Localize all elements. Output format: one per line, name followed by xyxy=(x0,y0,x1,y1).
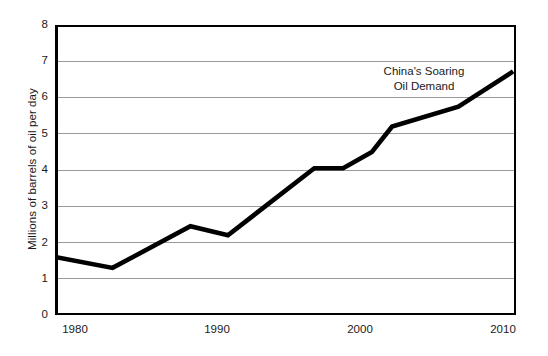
y-tick-label-1: 1 xyxy=(26,272,48,284)
y-tick-label-4: 4 xyxy=(26,163,48,175)
x-tick-label-1990: 1990 xyxy=(187,323,247,335)
y-tick-label-0: 0 xyxy=(26,308,48,320)
y-tick-label-5: 5 xyxy=(26,127,48,139)
chart-figure: Millions of barrels of oil per day 8 7 6… xyxy=(0,0,548,356)
x-tick-label-1980: 1980 xyxy=(45,323,105,335)
y-tick-label-2: 2 xyxy=(26,236,48,248)
y-tick-label-6: 6 xyxy=(26,90,48,102)
annotation-line-1: China's Soaring xyxy=(359,64,489,79)
x-tick-label-2010: 2010 xyxy=(473,323,533,335)
y-tick-label-3: 3 xyxy=(26,199,48,211)
x-tick-label-2000: 2000 xyxy=(330,323,390,335)
annotation-line-2: Oil Demand xyxy=(359,79,489,94)
y-tick-label-8: 8 xyxy=(26,18,48,30)
chart-annotation: China's Soaring Oil Demand xyxy=(359,64,489,94)
y-tick-label-7: 7 xyxy=(26,54,48,66)
